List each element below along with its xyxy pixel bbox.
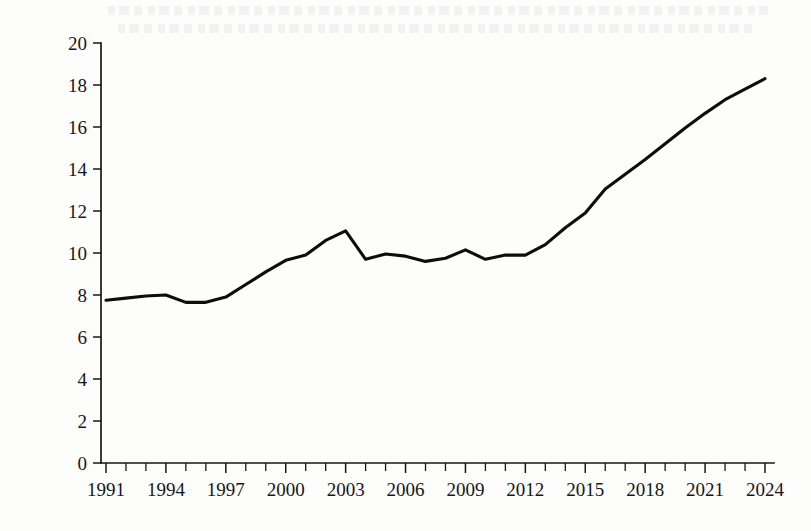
y-tick-label: 4 — [78, 369, 88, 390]
x-tick-label: 1991 — [87, 479, 125, 500]
y-tick-label: 18 — [68, 75, 87, 96]
x-tick-label: 2021 — [686, 479, 724, 500]
y-tick-label: 2 — [78, 411, 88, 432]
chart-page: 02468101214161820 1991199419972000200320… — [0, 0, 811, 531]
x-tick-label: 2015 — [566, 479, 604, 500]
y-tick-label: 14 — [68, 159, 88, 180]
x-tick-label: 2000 — [267, 479, 305, 500]
x-tick-label: 2003 — [327, 479, 365, 500]
x-axis-tick-labels: 1991199419972000200320062009201220152018… — [87, 479, 785, 500]
data-series-line — [106, 79, 765, 303]
y-tick-label: 20 — [68, 33, 87, 54]
x-tick-label: 2006 — [387, 479, 425, 500]
x-tick-label: 2024 — [746, 479, 785, 500]
x-tick-label: 2018 — [626, 479, 664, 500]
line-chart-figure: 02468101214161820 1991199419972000200320… — [0, 0, 811, 531]
y-tick-label: 0 — [78, 453, 88, 474]
x-axis-tick-marks — [106, 463, 765, 473]
x-tick-label: 1994 — [147, 479, 186, 500]
y-tick-label: 16 — [68, 117, 87, 138]
x-tick-label: 1997 — [207, 479, 245, 500]
y-tick-label: 12 — [68, 201, 87, 222]
y-tick-label: 10 — [68, 243, 87, 264]
y-tick-label: 6 — [78, 327, 88, 348]
y-tick-label: 8 — [78, 285, 88, 306]
x-tick-label: 2009 — [446, 479, 484, 500]
chart-canvas: 02468101214161820 1991199419972000200320… — [0, 0, 811, 531]
y-axis-tick-marks — [93, 43, 101, 463]
y-axis-tick-labels: 02468101214161820 — [68, 33, 88, 474]
x-tick-label: 2012 — [506, 479, 544, 500]
